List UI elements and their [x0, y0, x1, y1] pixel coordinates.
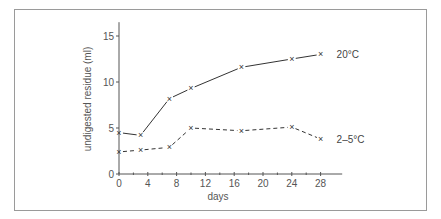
series-line-segment: [295, 129, 316, 138]
series-label: 2–5°C: [337, 134, 365, 145]
data-point-marker: ×: [116, 147, 121, 157]
y-axis-label: undigested residue (ml): [82, 47, 93, 152]
series-label: 20°C: [337, 49, 359, 60]
series-line-segment: [145, 148, 166, 150]
line-chart: 0481216202428051015 ×××××××20°C×××××××2–…: [0, 0, 441, 219]
x-tick-label: 8: [174, 178, 180, 189]
data-point-marker: ×: [138, 145, 143, 155]
series-line-segment: [245, 60, 288, 67]
series-20c: ×××××××20°C: [116, 49, 359, 140]
data-point-marker: ×: [318, 134, 323, 144]
y-tick-label: 5: [108, 123, 114, 134]
series-line-segment: [195, 69, 238, 87]
data-point-marker: ×: [116, 128, 121, 138]
data-point-marker: ×: [188, 123, 193, 133]
data-point-marker: ×: [167, 94, 172, 104]
x-tick-label: 0: [116, 178, 122, 189]
series-line-segment: [296, 55, 317, 58]
data-point-marker: ×: [188, 83, 193, 93]
series-line-segment: [143, 102, 167, 132]
x-axis-label: days: [207, 191, 228, 202]
x-tick-label: 20: [257, 178, 269, 189]
series-line-segment: [172, 131, 188, 145]
data-point-marker: ×: [239, 62, 244, 72]
series-line-segment: [123, 150, 137, 151]
y-tick-label: 0: [108, 169, 114, 180]
x-tick-label: 12: [200, 178, 212, 189]
data-point-marker: ×: [138, 130, 143, 140]
series-line-segment: [245, 127, 287, 130]
axes: 0481216202428051015: [103, 22, 342, 189]
series-layer: ×××××××20°C×××××××2–5°C: [116, 49, 364, 157]
x-tick-label: 28: [315, 178, 327, 189]
data-point-marker: ×: [318, 49, 323, 59]
series-line-segment: [195, 128, 237, 130]
x-tick-label: 4: [145, 178, 151, 189]
data-point-marker: ×: [239, 126, 244, 136]
x-tick-label: 16: [229, 178, 241, 189]
y-tick-label: 15: [103, 31, 115, 42]
data-point-marker: ×: [289, 122, 294, 132]
series-line-segment: [173, 90, 187, 97]
data-point-marker: ×: [289, 54, 294, 64]
series-line-segment: [123, 133, 137, 135]
x-tick-label: 24: [286, 178, 298, 189]
y-tick-label: 10: [103, 77, 115, 88]
series-2-5c: ×××××××2–5°C: [116, 122, 364, 157]
data-point-marker: ×: [167, 142, 172, 152]
